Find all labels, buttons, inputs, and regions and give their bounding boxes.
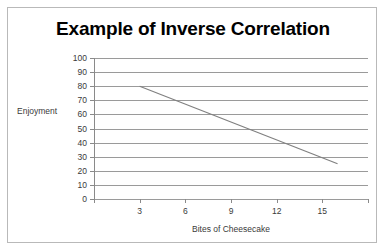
x-axis-tick-label: 12 — [272, 206, 281, 216]
plot-area: 1009080706050403020100 3691215 — [94, 58, 368, 199]
data-series-line — [94, 58, 368, 199]
y-axis-tick-label: 20 — [78, 166, 87, 176]
x-axis-tick-label: 9 — [229, 206, 234, 216]
x-axis-tick — [231, 199, 232, 203]
x-axis-tick — [140, 199, 141, 203]
x-axis-tick-label: 6 — [183, 206, 188, 216]
y-axis-tick-label: 0 — [82, 194, 87, 204]
y-axis-tick-label: 30 — [78, 152, 87, 162]
y-axis-tick-label: 40 — [78, 138, 87, 148]
y-axis-tick-label: 100 — [73, 53, 87, 63]
x-axis-tick — [368, 199, 369, 203]
chart-frame: Example of Inverse Correlation Enjoyment… — [7, 7, 377, 243]
x-axis-title: Bites of Cheesecake — [94, 224, 368, 234]
y-axis-title: Enjoyment — [17, 106, 57, 116]
x-axis-tick — [94, 199, 95, 203]
x-axis-tick — [322, 199, 323, 203]
y-axis-tick-label: 10 — [78, 180, 87, 190]
y-axis-tick-label: 70 — [78, 95, 87, 105]
x-axis-tick-label: 15 — [318, 206, 327, 216]
y-axis-tick-label: 60 — [78, 109, 87, 119]
y-axis-tick-label: 90 — [78, 67, 87, 77]
y-axis-tick-label: 50 — [78, 124, 87, 134]
x-axis-tick-label: 3 — [137, 206, 142, 216]
y-axis-tick-label: 80 — [78, 81, 87, 91]
x-axis-tick — [277, 199, 278, 203]
chart-title: Example of Inverse Correlation — [8, 18, 378, 40]
x-axis-tick — [185, 199, 186, 203]
